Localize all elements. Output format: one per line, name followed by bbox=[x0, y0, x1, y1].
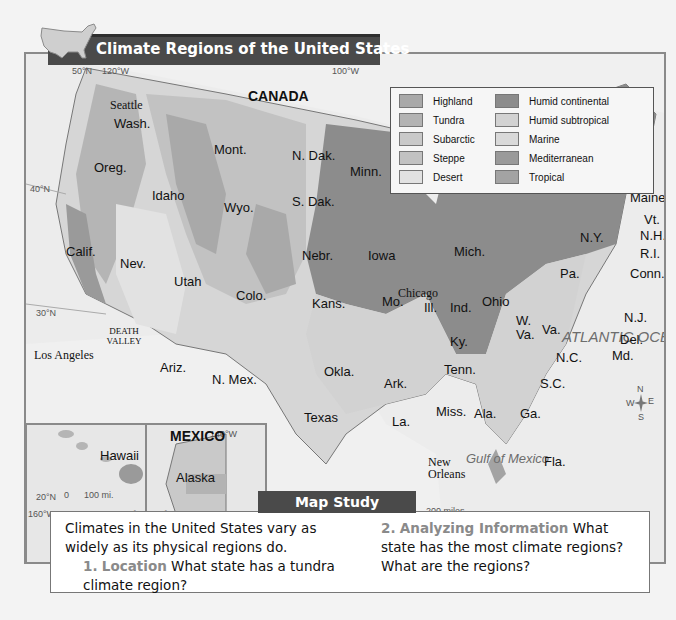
state-ala: Ala. bbox=[474, 406, 496, 421]
city-los-angeles: Los Angeles bbox=[34, 348, 94, 363]
state-vt: Vt. bbox=[644, 212, 660, 227]
state-nmex: N. Mex. bbox=[212, 372, 257, 387]
state-ky: Ky. bbox=[450, 334, 468, 349]
hawaii-scale-miles: 100 mi. bbox=[84, 490, 114, 500]
question-number: 1. bbox=[83, 558, 98, 574]
state-la: La. bbox=[392, 414, 410, 429]
legend-item-mediterranean: Mediterranean bbox=[495, 151, 593, 165]
state-nj: N.J. bbox=[624, 310, 647, 325]
legend-label: Steppe bbox=[433, 153, 465, 164]
lat-30-label: 30°N bbox=[36, 308, 56, 318]
question-1: 1. Location What state has a tundra clim… bbox=[65, 557, 355, 595]
state-hawaii: Hawaii bbox=[100, 448, 139, 463]
state-kans: Kans. bbox=[312, 296, 345, 311]
legend-swatch bbox=[399, 170, 423, 184]
map-study-column-2: 2. Analyzing Information What state has … bbox=[381, 519, 641, 576]
map-legend: Highland Tundra Subarctic Steppe Desert … bbox=[390, 87, 654, 194]
state-mo: Mo. bbox=[382, 294, 404, 309]
state-minn: Minn. bbox=[350, 164, 382, 179]
state-ind: Ind. bbox=[450, 300, 472, 315]
state-calif: Calif. bbox=[66, 244, 96, 259]
state-alaska: Alaska bbox=[176, 470, 215, 485]
state-mont: Mont. bbox=[214, 142, 247, 157]
legend-label: Marine bbox=[529, 134, 560, 145]
legend-label: Tropical bbox=[529, 172, 564, 183]
map-frame: Highland Tundra Subarctic Steppe Desert … bbox=[24, 52, 666, 564]
map-study-intro: Climates in the United States vary as wi… bbox=[65, 519, 355, 557]
state-va: Va. bbox=[542, 322, 561, 337]
state-nev: Nev. bbox=[120, 256, 146, 271]
gulf-of-mexico-label: Gulf of Mexico bbox=[466, 450, 536, 467]
legend-label: Tundra bbox=[433, 115, 464, 126]
legend-label: Desert bbox=[433, 172, 462, 183]
state-wva: W. Va. bbox=[516, 314, 540, 342]
legend-item-desert: Desert bbox=[399, 170, 462, 184]
compass-s: S bbox=[638, 412, 644, 422]
map-study-column-1: Climates in the United States vary as wi… bbox=[65, 519, 355, 595]
state-pa: Pa. bbox=[560, 266, 580, 281]
legend-swatch bbox=[399, 94, 423, 108]
state-texas: Texas bbox=[304, 410, 338, 425]
question-skill: Location bbox=[102, 558, 167, 574]
state-sc: S.C. bbox=[540, 376, 565, 391]
legend-item-tropical: Tropical bbox=[495, 170, 564, 184]
state-colo: Colo. bbox=[236, 288, 266, 303]
legend-label: Subarctic bbox=[433, 134, 475, 145]
state-wash: Wash. bbox=[114, 116, 150, 131]
state-ark: Ark. bbox=[384, 376, 407, 391]
country-mexico: MEXICO bbox=[170, 428, 225, 444]
legend-swatch bbox=[495, 132, 519, 146]
state-miss: Miss. bbox=[436, 404, 466, 419]
city-chicago: Chicago bbox=[398, 286, 438, 301]
legend-item-subarctic: Subarctic bbox=[399, 132, 475, 146]
state-oreg: Oreg. bbox=[94, 160, 127, 175]
map-study-box: Climates in the United States vary as wi… bbox=[50, 511, 650, 593]
question-number: 2. bbox=[381, 520, 396, 536]
state-ri: R.I. bbox=[640, 246, 660, 261]
compass-rose: N W E S bbox=[626, 384, 656, 424]
legend-swatch bbox=[495, 94, 519, 108]
state-nc: N.C. bbox=[556, 350, 582, 365]
state-ndak: N. Dak. bbox=[292, 148, 335, 163]
state-conn: Conn. bbox=[630, 266, 665, 281]
map-study-tab: Map Study bbox=[258, 491, 416, 513]
legend-swatch bbox=[495, 151, 519, 165]
state-utah: Utah bbox=[174, 274, 201, 289]
state-tenn: Tenn. bbox=[444, 362, 476, 377]
question-skill: Analyzing Information bbox=[400, 520, 569, 536]
legend-label: Humid continental bbox=[529, 96, 609, 107]
state-ariz: Ariz. bbox=[160, 360, 186, 375]
legend-label: Highland bbox=[433, 96, 472, 107]
lat-20-label: 20°N bbox=[36, 492, 56, 502]
legend-swatch bbox=[399, 132, 423, 146]
city-seattle: Seattle bbox=[110, 98, 143, 113]
state-idaho: Idaho bbox=[152, 188, 185, 203]
state-sdak: S. Dak. bbox=[292, 194, 335, 209]
lon-120-label: 120°W bbox=[102, 66, 129, 76]
us-silhouette-icon bbox=[38, 22, 100, 62]
lon-100-label: 100°W bbox=[332, 66, 359, 76]
state-nh: N.H. bbox=[640, 228, 666, 243]
death-valley-label: DEATH VALLEY bbox=[104, 326, 144, 346]
lat-50-label: 50°N bbox=[72, 66, 92, 76]
state-wyo: Wyo. bbox=[224, 200, 254, 215]
legend-label: Humid subtropical bbox=[529, 115, 609, 126]
city-new-orleans: New Orleans bbox=[428, 456, 468, 480]
compass-icon bbox=[634, 394, 648, 412]
state-mich: Mich. bbox=[454, 244, 485, 259]
legend-item-humid-continental: Humid continental bbox=[495, 94, 609, 108]
legend-swatch bbox=[495, 170, 519, 184]
legend-item-steppe: Steppe bbox=[399, 151, 465, 165]
state-ny: N.Y. bbox=[580, 230, 604, 245]
state-iowa: Iowa bbox=[368, 248, 395, 263]
compass-e: E bbox=[648, 396, 654, 406]
state-del: Del. bbox=[620, 332, 643, 347]
legend-swatch bbox=[399, 151, 423, 165]
question-2: 2. Analyzing Information What state has … bbox=[381, 519, 641, 576]
state-md: Md. bbox=[612, 348, 634, 363]
legend-item-marine: Marine bbox=[495, 132, 560, 146]
state-ga: Ga. bbox=[520, 406, 541, 421]
figure-title: Climate Regions of the United States bbox=[96, 40, 409, 58]
compass-n: N bbox=[637, 384, 644, 394]
lat-40-label: 40°N bbox=[30, 184, 50, 194]
